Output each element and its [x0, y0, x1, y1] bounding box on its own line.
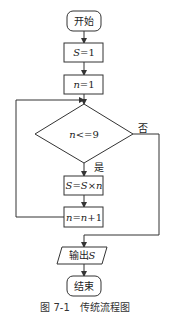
output-text: 输出 [69, 249, 89, 261]
update-n-rest: +1 [87, 212, 102, 223]
update-s-times: × [88, 180, 96, 191]
update-s-eq: = [72, 180, 80, 191]
end-node: 结束 [67, 276, 101, 296]
init-s-rest: =1 [80, 47, 95, 58]
condition-node: n<=9 [35, 104, 133, 163]
svg-text:n=n+1: n=n+1 [66, 212, 102, 223]
end-label: 结束 [74, 280, 94, 292]
update-s-var3: n [96, 180, 102, 191]
update-s-node: S=S×n [64, 176, 103, 195]
caption-number: 图 7-1 [40, 302, 70, 313]
svg-text:n<=9: n<=9 [69, 129, 99, 140]
caption-title: 传统流程图 [80, 301, 130, 313]
figure-caption: 图 7-1传统流程图 [40, 301, 130, 313]
yes-label: 是 [94, 162, 104, 173]
flowchart-diagram: 开始 S=1 n=1 n<=9 否 是 S=S×n [0, 0, 170, 317]
no-label: 否 [138, 123, 148, 134]
svg-text:输出S: 输出S [69, 249, 96, 261]
svg-text:S=S×n: S=S×n [66, 180, 103, 191]
output-var: S [89, 250, 96, 261]
svg-text:S=1: S=1 [73, 47, 95, 58]
start-label: 开始 [74, 15, 94, 27]
init-n-rest: =1 [80, 79, 95, 90]
init-n-node: n=1 [64, 75, 103, 94]
init-s-node: S=1 [64, 43, 103, 62]
update-n-eq: = [72, 212, 80, 223]
output-node: 输出S [57, 247, 107, 264]
update-n-node: n=n+1 [64, 207, 103, 227]
condition-rest: <=9 [76, 129, 99, 140]
svg-text:n=1: n=1 [73, 79, 94, 90]
start-node: 开始 [67, 11, 101, 31]
